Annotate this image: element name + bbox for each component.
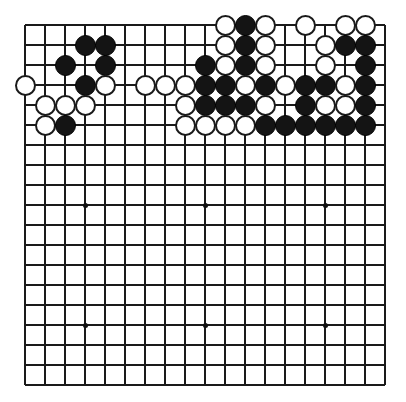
stone-white-18-1[interactable] xyxy=(355,15,376,36)
stone-black-13-6[interactable] xyxy=(255,115,276,136)
stone-white-9-6[interactable] xyxy=(175,115,196,136)
stone-black-18-3[interactable] xyxy=(355,55,376,76)
stone-black-3-3[interactable] xyxy=(55,55,76,76)
stone-white-11-6[interactable] xyxy=(215,115,236,136)
stone-white-15-1[interactable] xyxy=(295,15,316,36)
stone-black-14-6[interactable] xyxy=(275,115,296,136)
grid-line-vertical-6 xyxy=(124,25,126,385)
stone-white-8-4[interactable] xyxy=(155,75,176,96)
stone-black-18-4[interactable] xyxy=(355,75,376,96)
grid-line-vertical-19 xyxy=(384,25,386,385)
stone-black-12-2[interactable] xyxy=(235,35,256,56)
stone-black-3-6[interactable] xyxy=(55,115,76,136)
stone-white-13-2[interactable] xyxy=(255,35,276,56)
stone-black-11-4[interactable] xyxy=(215,75,236,96)
grid-line-vertical-2 xyxy=(44,25,46,385)
stone-white-3-5[interactable] xyxy=(55,95,76,116)
grid-line-vertical-3 xyxy=(64,25,66,385)
stone-black-12-3[interactable] xyxy=(235,55,256,76)
stone-black-17-2[interactable] xyxy=(335,35,356,56)
stone-black-4-2[interactable] xyxy=(75,35,96,56)
stone-white-9-5[interactable] xyxy=(175,95,196,116)
stone-black-12-1[interactable] xyxy=(235,15,256,36)
stone-white-12-4[interactable] xyxy=(235,75,256,96)
stone-white-17-5[interactable] xyxy=(335,95,356,116)
stone-white-16-5[interactable] xyxy=(315,95,336,116)
stone-black-16-4[interactable] xyxy=(315,75,336,96)
stone-white-17-4[interactable] xyxy=(335,75,356,96)
stone-black-15-4[interactable] xyxy=(295,75,316,96)
stone-white-11-2[interactable] xyxy=(215,35,236,56)
stone-white-9-4[interactable] xyxy=(175,75,196,96)
stone-white-16-2[interactable] xyxy=(315,35,336,56)
stone-white-2-5[interactable] xyxy=(35,95,56,116)
stone-black-18-5[interactable] xyxy=(355,95,376,116)
stone-black-11-5[interactable] xyxy=(215,95,236,116)
stone-black-15-5[interactable] xyxy=(295,95,316,116)
stone-white-12-6[interactable] xyxy=(235,115,256,136)
stone-white-5-4[interactable] xyxy=(95,75,116,96)
star-point-4-10 xyxy=(83,203,88,208)
stone-black-10-3[interactable] xyxy=(195,55,216,76)
stone-white-13-5[interactable] xyxy=(255,95,276,116)
stone-black-5-2[interactable] xyxy=(95,35,116,56)
star-point-10-10 xyxy=(203,203,208,208)
stone-black-17-6[interactable] xyxy=(335,115,356,136)
stone-white-16-3[interactable] xyxy=(315,55,336,76)
stone-black-12-5[interactable] xyxy=(235,95,256,116)
go-board[interactable] xyxy=(0,0,406,402)
stone-white-14-4[interactable] xyxy=(275,75,296,96)
stone-white-11-1[interactable] xyxy=(215,15,236,36)
star-point-4-16 xyxy=(83,323,88,328)
stone-black-15-6[interactable] xyxy=(295,115,316,136)
star-point-10-16 xyxy=(203,323,208,328)
stone-black-13-4[interactable] xyxy=(255,75,276,96)
stone-black-4-4[interactable] xyxy=(75,75,96,96)
stone-white-10-6[interactable] xyxy=(195,115,216,136)
stone-white-2-6[interactable] xyxy=(35,115,56,136)
stone-black-16-6[interactable] xyxy=(315,115,336,136)
stone-black-10-4[interactable] xyxy=(195,75,216,96)
stone-white-11-3[interactable] xyxy=(215,55,236,76)
stone-white-13-1[interactable] xyxy=(255,15,276,36)
stone-white-17-1[interactable] xyxy=(335,15,356,36)
stone-white-1-4[interactable] xyxy=(15,75,36,96)
stone-black-18-2[interactable] xyxy=(355,35,376,56)
stone-black-10-5[interactable] xyxy=(195,95,216,116)
stone-black-5-3[interactable] xyxy=(95,55,116,76)
stone-white-7-4[interactable] xyxy=(135,75,156,96)
star-point-16-10 xyxy=(323,203,328,208)
stone-white-13-3[interactable] xyxy=(255,55,276,76)
stone-black-18-6[interactable] xyxy=(355,115,376,136)
star-point-16-16 xyxy=(323,323,328,328)
stone-white-4-5[interactable] xyxy=(75,95,96,116)
go-board-container xyxy=(0,0,406,402)
